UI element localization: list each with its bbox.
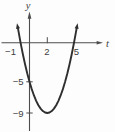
curve-arrowhead-right [75,23,79,29]
parabola-graph-figure: y t −1 2 5 −5 −9 [0,0,115,132]
parabola-graph-svg: y t −1 2 5 −5 −9 [0,0,115,132]
y-axis-arrowhead [28,12,32,19]
t-axis-label: t [106,38,110,49]
y-tick-label-neg9: −9 [13,108,24,119]
curve-arrowhead-left [16,23,20,29]
t-axis-arrowhead [97,41,103,45]
x-tick-label-2: 2 [44,46,49,57]
y-axis-label: y [25,0,31,11]
y-tick-label-neg5: −5 [13,76,24,87]
x-tick-label-5: 5 [74,46,79,57]
x-tick-label-neg1: −1 [5,46,16,57]
